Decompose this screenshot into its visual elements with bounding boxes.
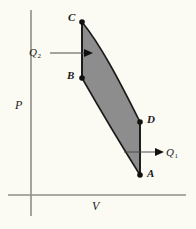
point-marker-A [137,172,143,178]
heat-label-Q1-symbol: Q [166,146,174,158]
heat-label-Q1: Q1 [166,147,177,158]
pv-diagram-canvas [0,0,196,229]
heat-arrow-Q1-head [155,148,164,156]
point-label-C: C [68,12,75,23]
pv-diagram-figure: P V C B D A Q2 Q1 [0,0,196,229]
point-label-B: B [67,70,74,81]
heat-label-Q2-subscript: 2 [37,52,41,60]
point-label-D: D [147,114,155,125]
point-marker-C [79,19,85,25]
heat-label-Q2: Q2 [29,47,40,58]
point-marker-D [137,119,143,125]
heat-label-Q1-subscript: 1 [174,152,178,160]
pressure-axis-label: P [15,99,22,111]
heat-label-Q2-symbol: Q [29,46,37,58]
point-label-A: A [147,168,154,179]
heat-arrow-Q2 [50,49,93,57]
point-marker-B [79,75,85,81]
volume-axis-label: V [92,200,99,212]
